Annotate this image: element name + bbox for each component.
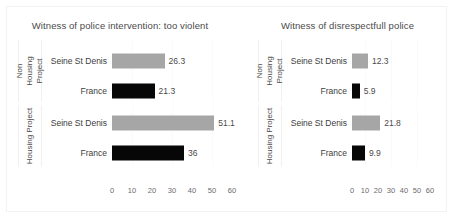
facet-strip-label: Non Housing Project [15, 56, 45, 85]
gridline [391, 40, 392, 102]
category-label: France [321, 148, 347, 158]
plot-area: Seine St Denis 26.3 France 21.3 [112, 40, 232, 102]
bar-seine-st-denis [112, 116, 214, 131]
panel-title: Witness of disrespectfull police [240, 20, 455, 31]
panel-disrespectful-police: Witness of disrespectfull police Non Hou… [240, 0, 455, 220]
bar-value-label: 26.3 [165, 56, 186, 66]
facet-strip-label: Housing Project [25, 108, 35, 164]
chart-root: Witness of police intervention: too viol… [0, 0, 455, 220]
bar-value-label: 9.9 [365, 148, 381, 158]
x-axis: 0 10 20 30 40 50 60 [352, 186, 430, 202]
facet-housing-project: Housing Project Seine St Denis 21.8 Fran… [240, 105, 455, 167]
category-label: Seine St Denis [291, 118, 347, 128]
bar-seine-st-denis [352, 54, 368, 69]
gridline [417, 105, 418, 167]
category-label: France [81, 86, 107, 96]
axis-tick: 40 [400, 186, 408, 195]
gridline [417, 40, 418, 102]
bar-france [112, 84, 155, 99]
facet-non-housing-project: Non Housing Project Seine St Denis 12.3 … [240, 40, 455, 102]
x-axis: 0 10 20 30 40 50 60 [112, 186, 232, 202]
plot-area: Seine St Denis 51.1 France 36 [112, 105, 232, 167]
bar-seine-st-denis [112, 54, 165, 69]
gridline [212, 105, 213, 167]
axis-tick: 60 [228, 186, 236, 195]
gridline [212, 40, 213, 102]
facet-housing-project: Housing Project Seine St Denis 51.1 Fran… [0, 105, 240, 167]
bar-seine-st-denis [352, 116, 380, 131]
bar-value-label: 36 [184, 148, 197, 158]
panel-police-intervention: Witness of police intervention: too viol… [0, 0, 240, 220]
bar-value-label: 12.3 [368, 56, 389, 66]
category-label: Seine St Denis [291, 56, 347, 66]
category-label: France [81, 148, 107, 158]
bar-value-label: 51.1 [214, 118, 235, 128]
axis-tick: 40 [188, 186, 196, 195]
facet-non-housing-project: Non Housing Project Seine St Denis 26.3 … [0, 40, 240, 102]
bar-france [352, 146, 365, 161]
facet-strip: Housing Project [258, 105, 282, 167]
gridline [391, 105, 392, 167]
axis-tick: 0 [110, 186, 114, 195]
facet-strip-label: Non Housing Project [255, 56, 285, 85]
bar-france [112, 146, 184, 161]
plot-area: Seine St Denis 12.3 France 5.9 [352, 40, 430, 102]
facet-strip: Non Housing Project [18, 40, 42, 102]
axis-tick: 50 [208, 186, 216, 195]
facet-strip: Non Housing Project [258, 40, 282, 102]
axis-tick: 20 [374, 186, 382, 195]
axis-tick: 10 [361, 186, 369, 195]
axis-tick: 30 [387, 186, 395, 195]
bar-value-label: 5.9 [360, 86, 376, 96]
bar-france [352, 84, 360, 99]
category-label: Seine St Denis [51, 118, 107, 128]
bar-value-label: 21.8 [380, 118, 401, 128]
facet-strip: Housing Project [18, 105, 42, 167]
axis-tick: 10 [128, 186, 136, 195]
axis-tick: 50 [413, 186, 421, 195]
category-label: Seine St Denis [51, 56, 107, 66]
category-label: France [321, 86, 347, 96]
facet-strip-label: Housing Project [265, 108, 275, 164]
plot-area: Seine St Denis 21.8 France 9.9 [352, 105, 430, 167]
panel-title: Witness of police intervention: too viol… [0, 20, 240, 31]
bar-value-label: 21.3 [155, 86, 176, 96]
axis-tick: 30 [168, 186, 176, 195]
axis-tick: 60 [426, 186, 434, 195]
axis-tick: 20 [148, 186, 156, 195]
axis-tick: 0 [350, 186, 354, 195]
